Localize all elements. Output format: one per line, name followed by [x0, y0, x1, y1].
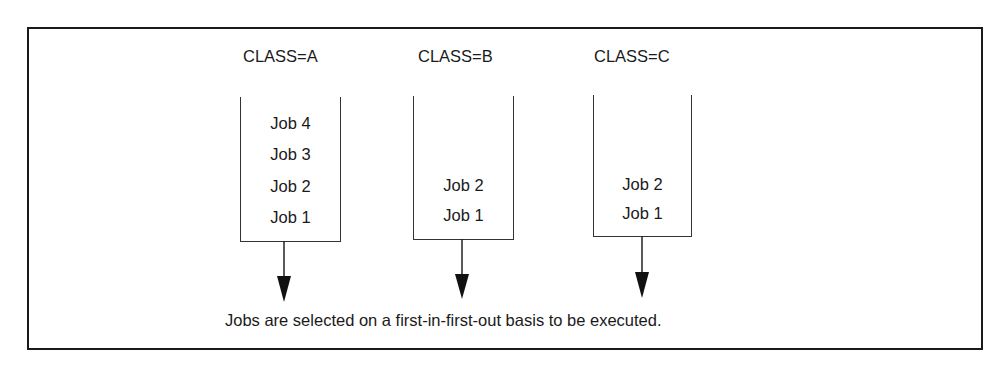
arrow-down-icon: [455, 239, 469, 299]
fifo-caption: Jobs are selected on a first-in-first-ou…: [225, 311, 662, 330]
arrow-down-icon: [635, 236, 649, 298]
arrow-down-icon: [277, 241, 291, 302]
